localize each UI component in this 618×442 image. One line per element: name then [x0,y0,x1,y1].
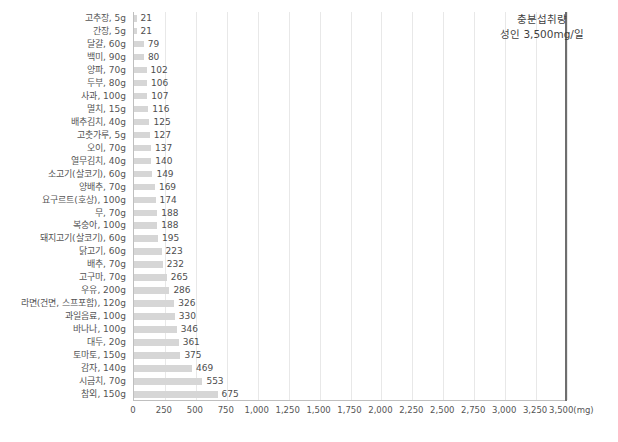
x-axis-tick: 500 [187,403,203,417]
bar-row: 배추김치, 40g125 [0,116,618,129]
bar-row-label: 오이, 70g [0,142,126,155]
bar-row: 요구르트(호상), 100g174 [0,194,618,207]
bar-row-label: 닭고기, 60g [0,245,126,258]
x-axis-tick: 2,000 [368,403,392,417]
bar-value-label: 265 [171,271,188,284]
bar-row-label: 달걀, 60g [0,38,126,51]
bar [134,210,157,217]
bar-row: 사과, 100g107 [0,90,618,103]
bar [134,261,163,268]
x-axis-tick: 2,250 [399,403,423,417]
bar [134,287,169,294]
bar [134,145,151,152]
bar-row: 대두, 20g361 [0,336,618,349]
bar-value-label: 223 [166,245,183,258]
bar-row-label: 고구마, 70g [0,271,126,284]
bar-value-label: 188 [161,207,178,220]
bar-row-label: 시금치, 70g [0,375,126,388]
bar-row-label: 무, 70g [0,207,126,220]
bar-row-label: 감자, 140g [0,362,126,375]
x-axis-tick: 3,250 [523,403,547,417]
bar-row-label: 두부, 80g [0,77,126,90]
bar-value-label: 125 [153,116,170,129]
bar [134,15,137,22]
bar-value-label: 21 [141,12,152,25]
bar [134,378,202,385]
bar-value-label: 188 [161,219,178,232]
bar-row: 토마토, 150g375 [0,349,618,362]
bar [134,106,148,113]
bar-row: 멸치, 15g116 [0,103,618,116]
bar-row-label: 백미, 90g [0,51,126,64]
bar-row-label: 우유, 200g [0,284,126,297]
bar-value-label: 346 [181,323,198,336]
x-axis-tick: 2,750 [461,403,485,417]
bar [134,235,158,242]
bar-row-label: 복숭아, 100g [0,219,126,232]
bar-value-label: 79 [148,38,159,51]
bar [134,41,144,48]
bar-row-label: 요구르트(호상), 100g [0,194,126,207]
x-axis-tick: 2,500 [430,403,454,417]
bar-value-label: 116 [152,103,169,116]
bar-row: 닭고기, 60g223 [0,245,618,258]
bar [134,339,179,346]
bar-row: 돼지고기(살코기), 60g195 [0,232,618,245]
bar-row-label: 과일음료, 100g [0,310,126,323]
bar-row-label: 토마토, 150g [0,349,126,362]
bar-value-label: 21 [141,25,152,38]
bar-value-label: 675 [222,388,239,401]
bar [134,391,218,398]
bar-row: 고추장, 5g21 [0,12,618,25]
bar-value-label: 330 [179,310,196,323]
bar-value-label: 107 [151,90,168,103]
bar [134,326,177,333]
potassium-intake-bar-chart: 충분섭취량 성인 3,500mg/일 고추장, 5g21간장, 5g21달걀, … [0,0,618,442]
bar-row: 바나나, 100g346 [0,323,618,336]
bar-row-label: 돼지고기(살코기), 60g [0,232,126,245]
bar-row-label: 간장, 5g [0,25,126,38]
bar-row-label: 대두, 20g [0,336,126,349]
bar-rows: 고추장, 5g21간장, 5g21달걀, 60g79백미, 90g80양파, 7… [0,12,618,401]
bar-row: 고구마, 70g265 [0,271,618,284]
bar-row-label: 배추, 70g [0,258,126,271]
bar [134,197,156,204]
bar-value-label: 127 [154,129,171,142]
bar-row: 감자, 140g469 [0,362,618,375]
bar-row: 양배추, 70g169 [0,181,618,194]
bar-row-label: 소고기(살코기), 60g [0,168,126,181]
bar-value-label: 174 [160,194,177,207]
bar [134,300,174,307]
bar [134,171,152,178]
bar-row: 무, 70g188 [0,207,618,220]
x-axis-tick-labels: 02505007501,0001,2501,5001,7502,0002,250… [0,403,618,419]
bar-row: 복숭아, 100g188 [0,219,618,232]
bar-row-label: 멸치, 15g [0,103,126,116]
bar-value-label: 232 [167,258,184,271]
bar-row-label: 양파, 70g [0,64,126,77]
bar [134,80,147,87]
bar-value-label: 195 [162,232,179,245]
bar-value-label: 326 [178,297,195,310]
bar-value-label: 137 [155,142,172,155]
bar [134,313,175,320]
bar-value-label: 102 [151,64,168,77]
bar-row-label: 참외, 150g [0,388,126,401]
bar-row: 배추, 70g232 [0,258,618,271]
bar-row-label: 고춧가루, 5g [0,129,126,142]
bar-row-label: 고추장, 5g [0,12,126,25]
x-axis-tick: 3,000 [492,403,516,417]
x-axis-tick: 750 [218,403,234,417]
bar-row: 두부, 80g106 [0,77,618,90]
bar-row: 양파, 70g102 [0,64,618,77]
bar [134,132,150,139]
bar-row-label: 배추김치, 40g [0,116,126,129]
bar-row-label: 바나나, 100g [0,323,126,336]
bar-value-label: 469 [196,362,213,375]
bar-row: 고춧가루, 5g127 [0,129,618,142]
bar-value-label: 361 [183,336,200,349]
bar [134,119,149,126]
bar [134,365,192,372]
bar-value-label: 553 [206,375,223,388]
x-axis-tick: 1,250 [275,403,299,417]
